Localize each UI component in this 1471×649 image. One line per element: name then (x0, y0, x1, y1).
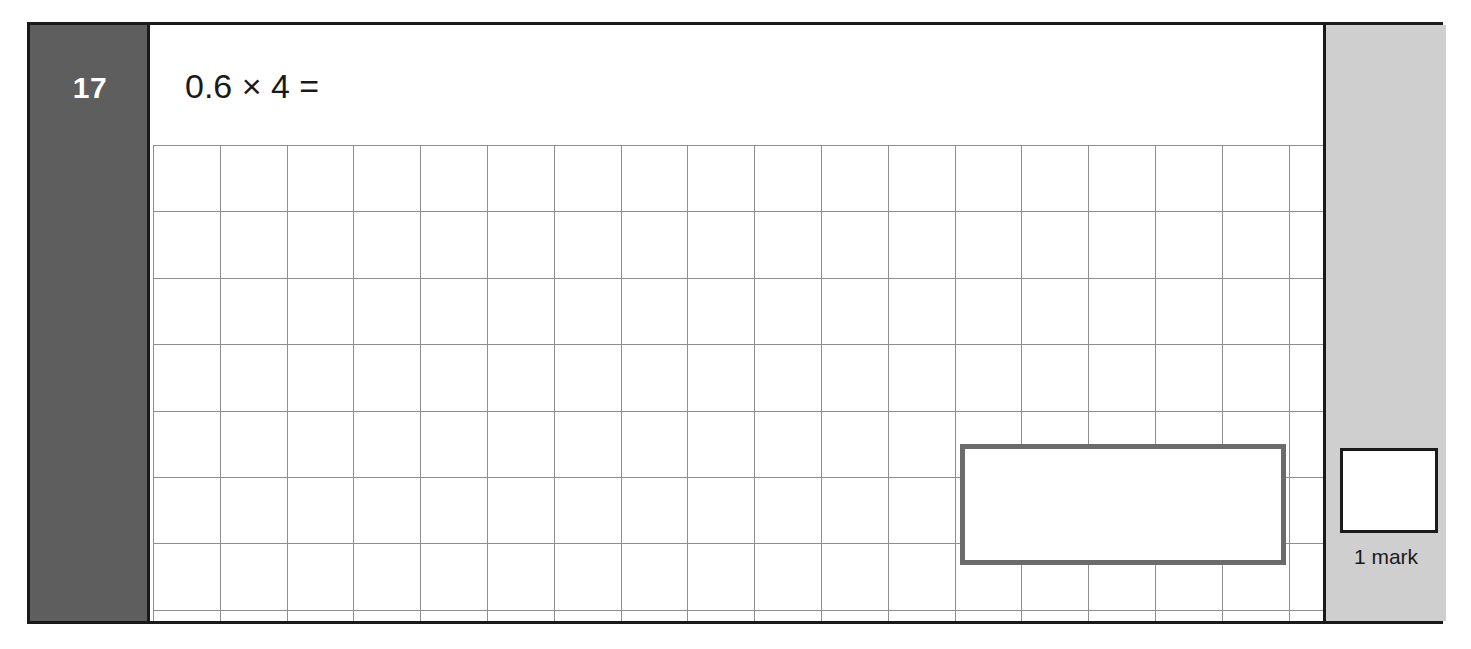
question-frame: 17 0.6 × 4 = 1 mark (27, 22, 1443, 624)
mark-column: 1 mark (1323, 25, 1446, 621)
question-number-label: 17 (30, 73, 150, 103)
question-text: 0.6 × 4 = (185, 69, 319, 103)
question-text-band: 0.6 × 4 = (153, 25, 1323, 145)
question-work-area: 0.6 × 4 = (153, 25, 1323, 621)
answer-input-box[interactable] (960, 444, 1286, 565)
mark-label: 1 mark (1326, 546, 1446, 567)
mark-score-box[interactable] (1340, 448, 1438, 533)
question-number-block: 17 (30, 25, 150, 621)
exam-question-page: 17 0.6 × 4 = 1 mark (0, 0, 1471, 649)
